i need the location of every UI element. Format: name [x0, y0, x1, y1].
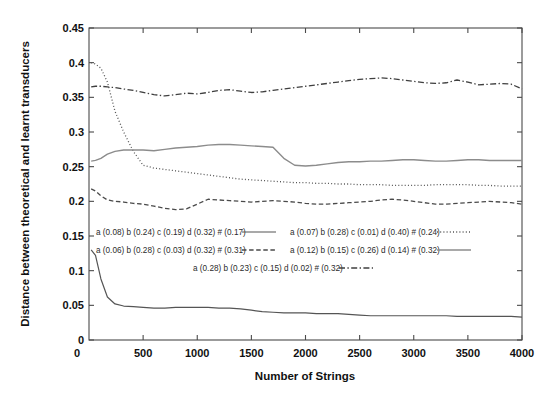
- x-tick-label: 3500: [456, 347, 480, 359]
- x-tick-labels: 05001000150020002500300035004000: [74, 347, 534, 359]
- y-tick-label: 0.2: [69, 195, 84, 207]
- legend-item-r1c2-label: a (0.07) b (0.28) c (0.01) d (0.40) # (0…: [290, 228, 440, 237]
- y-tick-label: 0: [78, 334, 84, 346]
- y-tick-label: 0.4: [69, 57, 85, 69]
- legend-item-r2c2-label: a (0.12) b (0.15) c (0.26) d (0.14) # (0…: [290, 246, 440, 255]
- line-chart: Distance between theoretical and learnt …: [0, 0, 549, 416]
- x-tick-label: 1500: [239, 347, 263, 359]
- y-tick-label: 0.3: [69, 126, 84, 138]
- x-tick-label: 500: [134, 347, 152, 359]
- y-tick-label: 0.45: [63, 22, 84, 34]
- x-tick-label: 2500: [347, 347, 371, 359]
- legend-item-center-label: a (0.28) b (0.23) c (0.15) d (0.02) # (0…: [193, 264, 343, 273]
- x-tick-label: 3000: [402, 347, 426, 359]
- x-tick-label: 1000: [185, 347, 209, 359]
- x-tick-label: 2000: [293, 347, 317, 359]
- y-tick-label: 0.35: [63, 91, 84, 103]
- x-tick-label: 0: [74, 347, 80, 359]
- chart-figure: Distance between theoretical and learnt …: [0, 0, 549, 416]
- x-axis-title-text: Number of Strings: [255, 370, 355, 382]
- y-tick-label: 0.1: [69, 265, 84, 277]
- y-tick-label: 0.25: [63, 161, 84, 173]
- y-tick-label: 0.05: [63, 299, 84, 311]
- legend-item-r1c1-label: a (0.08) b (0.24) c (0.19) d (0.32) # (0…: [96, 228, 246, 237]
- y-tick-label: 0.15: [63, 230, 84, 242]
- y-axis-title-text: Distance between theoretical and learnt …: [19, 41, 31, 327]
- x-tick-label: 4000: [510, 347, 534, 359]
- y-axis-title: Distance between theoretical and learnt …: [19, 41, 31, 327]
- legend-item-r2c1-label: a (0.06) b (0.28) c (0.03) d (0.32) # (0…: [96, 246, 246, 255]
